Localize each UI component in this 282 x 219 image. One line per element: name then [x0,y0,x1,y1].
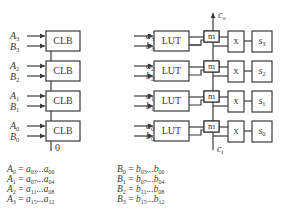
input-label-b1: b1 [146,101,154,114]
lut-label-3: LUT [154,36,189,46]
sum-label-s3: s3 [252,36,272,49]
clb-label-3: CLB [46,36,80,46]
mux-label-1: m [204,91,219,101]
input-label-b2: b2 [146,71,154,84]
carry-in-label: ci [217,144,223,157]
sum-label-s2: s2 [252,66,272,79]
input-label-b0: b0 [146,131,154,144]
xor-label-3: x [228,36,244,46]
clb-label-1: CLB [46,96,80,106]
equation-B3: B3 = b15...b12 [117,194,165,208]
clb-label-2: CLB [46,66,80,76]
sum-label-s0: s0 [252,126,272,139]
xor-label-1: x [228,96,244,106]
clb-label-0: CLB [46,126,80,136]
input-label-B1: B1 [10,102,19,115]
input-label-B0: B0 [10,132,19,145]
xor-label-0: x [228,126,244,136]
sum-label-s1: s1 [252,96,272,109]
carry-out-label: co [218,10,226,23]
mux-label-0: m [204,121,219,131]
mux-label-3: m [204,31,219,41]
lut-label-0: LUT [154,126,189,136]
lut-label-1: LUT [154,96,189,106]
xor-label-2: x [228,66,244,76]
lut-label-2: LUT [154,66,189,76]
input-label-B3: B3 [10,42,19,55]
input-label-b3: b3 [146,41,154,54]
mux-label-2: m [204,61,219,71]
carry-in-zero: 0 [55,143,60,153]
equation-A3: A3 = a15...a12 [7,194,55,208]
input-label-B2: B2 [10,72,19,85]
